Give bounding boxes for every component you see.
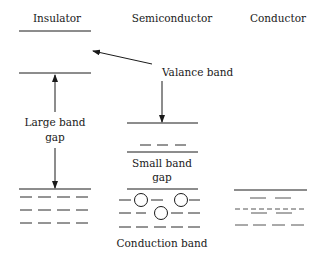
conduction-band-label: Conduction band: [117, 237, 208, 249]
semiconductor-bands: Small band gap Conduction band: [117, 123, 208, 249]
insulator-conduction-dashes: [20, 197, 88, 223]
conductor-overlapping-dashes: [235, 198, 304, 225]
column-title-conductor: Conductor: [250, 12, 307, 24]
electron-circle-icon: [135, 194, 148, 207]
band-gap-diagram: Insulator Semiconductor Conductor Large …: [0, 0, 322, 259]
valance-band-label: Valance band: [161, 66, 233, 78]
valance-band-callout: Valance band: [93, 51, 233, 122]
valance-band-arrow-left-icon: [93, 51, 152, 64]
conductor-bands: [234, 190, 307, 225]
column-title-insulator: Insulator: [33, 12, 82, 24]
electron-circle-icon: [155, 207, 168, 220]
insulator-bands: Large band gap: [19, 31, 91, 223]
column-title-semiconductor: Semiconductor: [132, 12, 214, 24]
large-gap-label-line1: Large band: [25, 116, 86, 128]
large-gap-label-line2: gap: [45, 131, 65, 143]
electron-holes: [135, 194, 188, 220]
electron-circle-icon: [175, 194, 188, 207]
small-gap-label-line2: gap: [152, 171, 172, 183]
small-gap-label-line1: Small band: [132, 157, 192, 169]
